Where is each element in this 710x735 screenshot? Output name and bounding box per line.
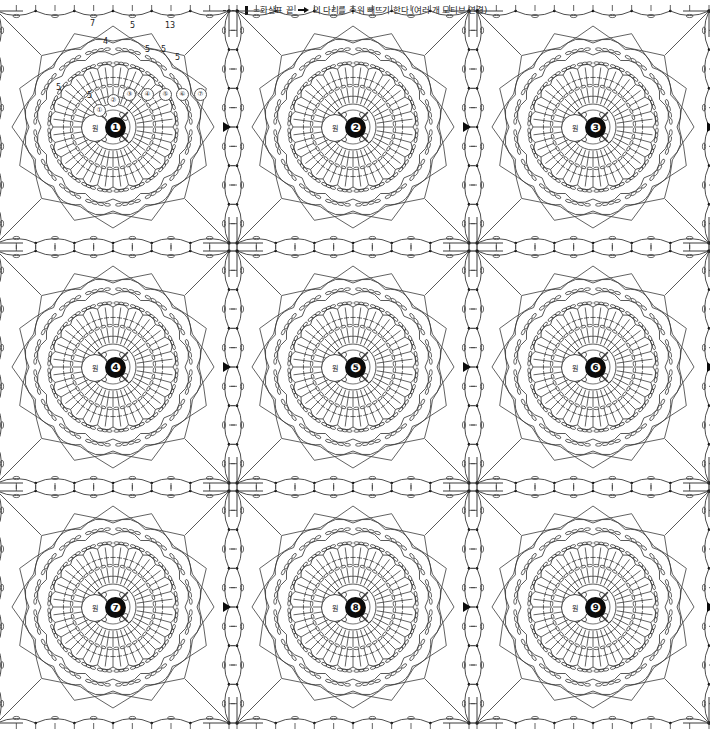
motif-number-badge: ❺ — [345, 357, 366, 378]
chain-count-label-9: 5 — [87, 92, 92, 100]
join-arrow-icon — [223, 602, 231, 612]
round-marker-1: ① — [93, 104, 106, 117]
motif-7: 원❼ — [0, 492, 235, 732]
motif-1: 원❶①②③④⑤⑥⑦7513455555 — [0, 12, 235, 252]
motif-number-badge: ❽ — [345, 597, 366, 618]
chain-count-label-4: 4 — [103, 38, 108, 46]
chain-count-label-3: 13 — [165, 22, 175, 30]
join-arrow-icon — [223, 122, 231, 132]
join-arrow-icon — [463, 602, 471, 612]
chain-count-label-1: 7 — [90, 20, 95, 28]
motif-number-badge: ❹ — [105, 357, 126, 378]
chain-count-label-2: 5 — [130, 22, 135, 30]
chain-count-label-8: 5 — [56, 84, 61, 92]
join-arrow-icon — [463, 362, 471, 372]
round-marker-2: ② — [107, 94, 120, 107]
crochet-pattern-page: =화살표 끝 의 다리를 주워 빼뜨기 한다 (여러 개 모티브 연결) 원❶①… — [0, 0, 710, 735]
round-marker-7: ⑦ — [194, 88, 207, 101]
motif-number-badge: ❷ — [345, 117, 366, 138]
motif-number-badge: ❻ — [585, 357, 606, 378]
join-arrow-icon — [223, 362, 231, 372]
motif-8: 원❽ — [235, 492, 475, 732]
motif-number-badge: ❾ — [585, 597, 606, 618]
round-marker-3: ③ — [123, 88, 136, 101]
motif-number-badge: ❼ — [105, 597, 126, 618]
round-marker-4: ④ — [141, 88, 154, 101]
motif-6: 원❻ — [475, 252, 710, 492]
chain-count-label-6: 5 — [161, 46, 166, 54]
round-marker-6: ⑥ — [176, 88, 189, 101]
motif-3: 원❸ — [475, 12, 710, 252]
motif-4: 원❹ — [0, 252, 235, 492]
join-arrow-icon — [463, 122, 471, 132]
motif-5: 원❺ — [235, 252, 475, 492]
chain-count-label-5: 5 — [145, 46, 150, 54]
motif-number-badge: ❸ — [585, 117, 606, 138]
motif-2: 원❷ — [235, 12, 475, 252]
motif-number-badge: ❶ — [105, 117, 126, 138]
chain-count-label-7: 5 — [175, 54, 180, 62]
motif-grid: 원❶①②③④⑤⑥⑦7513455555원❷원❸원❹원❺원❻원❼원❽원❾ — [0, 20, 710, 735]
round-marker-5: ⑤ — [159, 88, 172, 101]
motif-9: 원❾ — [475, 492, 710, 732]
